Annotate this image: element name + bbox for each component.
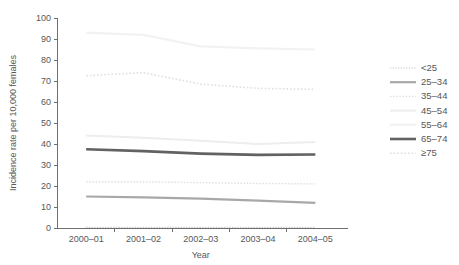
x-tick-label: 2003–04 bbox=[241, 234, 276, 244]
y-tick-label: 70 bbox=[41, 76, 51, 86]
x-tick-label: 2004–05 bbox=[298, 234, 333, 244]
y-tick-group: 0102030405060708090100 bbox=[36, 13, 58, 233]
y-tick-label: 90 bbox=[41, 34, 51, 44]
y-axis-title: Incidence rate per 10,000 females bbox=[8, 54, 18, 191]
series-line-5564 bbox=[86, 33, 315, 50]
legend-label: 45–54 bbox=[421, 105, 447, 116]
series-line-4554 bbox=[86, 136, 315, 144]
series-line-75 bbox=[86, 73, 315, 90]
x-axis-group: 2000–012001–022002–032003–042004–05 Year bbox=[58, 228, 349, 260]
x-tick-label: 2000–01 bbox=[69, 234, 104, 244]
legend: <2525–3435–4445–5455–6465–74≥75 bbox=[390, 62, 447, 158]
legend-label: ≥75 bbox=[421, 147, 437, 158]
x-tick-label: 2001–02 bbox=[126, 234, 161, 244]
legend-label: 55–64 bbox=[421, 119, 447, 130]
y-tick-label: 60 bbox=[41, 97, 51, 107]
y-tick-label: 20 bbox=[41, 181, 51, 191]
legend-label: 25–34 bbox=[421, 76, 447, 87]
y-tick-label: 30 bbox=[41, 160, 51, 170]
y-tick-label: 50 bbox=[41, 118, 51, 128]
y-tick-label: 0 bbox=[46, 223, 51, 233]
x-tick-group: 2000–012001–022002–032003–042004–05 bbox=[69, 228, 333, 244]
x-axis-title: Year bbox=[192, 250, 210, 260]
incidence-rate-line-chart: 0102030405060708090100 Incidence rate pe… bbox=[0, 0, 459, 265]
y-tick-label: 40 bbox=[41, 139, 51, 149]
y-tick-label: 100 bbox=[36, 13, 51, 23]
y-tick-label: 10 bbox=[41, 202, 51, 212]
legend-label: 65–74 bbox=[421, 133, 447, 144]
legend-label: 35–44 bbox=[421, 90, 447, 101]
series-line-6574 bbox=[86, 149, 315, 155]
series-line-2534 bbox=[86, 197, 315, 203]
series-line-3544 bbox=[86, 182, 315, 184]
y-tick-label: 80 bbox=[41, 55, 51, 65]
legend-label: <25 bbox=[421, 62, 437, 73]
series-group bbox=[86, 33, 315, 228]
y-axis-group: 0102030405060708090100 Incidence rate pe… bbox=[8, 13, 58, 233]
x-tick-label: 2002–03 bbox=[183, 234, 218, 244]
chart-canvas: 0102030405060708090100 Incidence rate pe… bbox=[0, 0, 459, 265]
